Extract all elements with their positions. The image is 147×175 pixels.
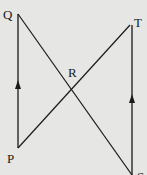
label-t: T <box>134 15 142 30</box>
arrow-up-icon <box>129 94 135 103</box>
arrow-up-icon <box>15 80 21 89</box>
geometry-figure: Q T R P S <box>0 0 147 175</box>
segment-pt <box>18 25 130 148</box>
label-p: P <box>7 151 14 166</box>
label-r: R <box>68 65 77 80</box>
label-q: Q <box>3 7 13 22</box>
diagram-canvas: Q T R P S <box>0 0 147 175</box>
segment-qs <box>18 14 132 175</box>
label-s: S <box>137 169 144 175</box>
